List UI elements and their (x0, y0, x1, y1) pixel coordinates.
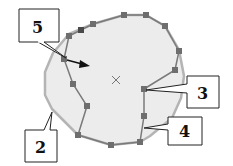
vertex-node[interactable] (90, 21, 96, 27)
vertex-node[interactable] (70, 81, 76, 87)
vertex-node[interactable] (121, 12, 127, 18)
vertex-node[interactable] (75, 132, 81, 138)
callout-3-label: 3 (197, 84, 208, 103)
callout-2: 2 (25, 112, 57, 162)
vertex-node[interactable] (108, 142, 114, 148)
diagram-canvas: 5 2 3 4 (0, 0, 233, 166)
vertex-node[interactable] (78, 27, 84, 33)
vertex-node[interactable] (176, 48, 182, 54)
vertex-node[interactable] (84, 103, 90, 109)
vertex-node[interactable] (141, 113, 147, 119)
callout-4-label: 4 (179, 122, 190, 141)
callout-2-label: 2 (35, 138, 46, 157)
vertex-node[interactable] (141, 86, 147, 92)
vertex-node[interactable] (137, 139, 143, 145)
vertex-node[interactable] (172, 67, 178, 73)
callout-5-label: 5 (32, 18, 43, 37)
vertex-node[interactable] (143, 12, 149, 18)
vertex-node[interactable] (66, 33, 72, 39)
vertex-node[interactable] (162, 23, 168, 29)
